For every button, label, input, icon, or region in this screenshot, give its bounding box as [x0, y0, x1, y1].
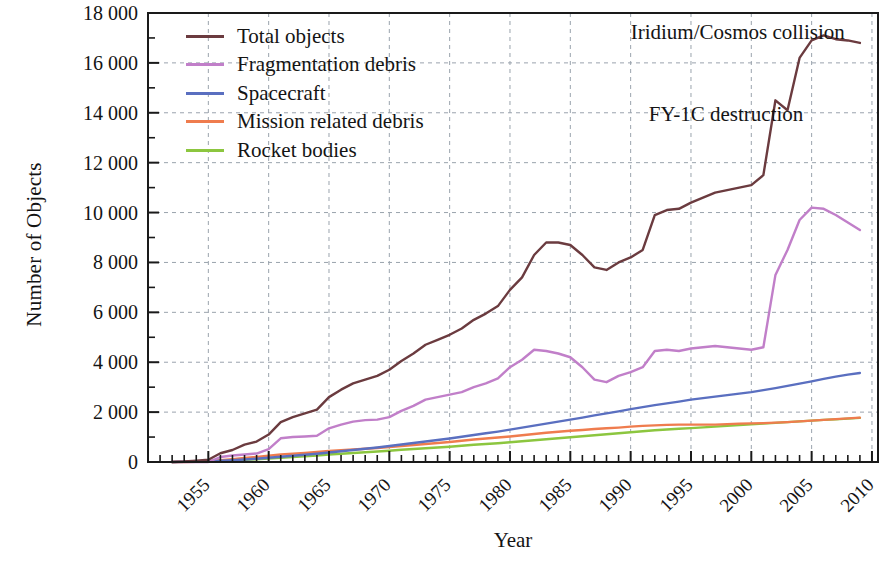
legend-item[interactable]: Mission related debris	[186, 108, 424, 137]
legend-color-swatch	[186, 35, 224, 38]
legend-item[interactable]: Fragmentation debris	[186, 51, 424, 80]
legend-label: Rocket bodies	[237, 140, 357, 161]
legend-label: Mission related debris	[237, 111, 424, 132]
plot-area	[0, 0, 891, 564]
chart-figure: Number of Objects Year 02 0004 0006 0008…	[0, 0, 891, 564]
legend-color-swatch	[186, 92, 224, 95]
legend-color-swatch	[186, 63, 224, 66]
legend-item[interactable]: Total objects	[186, 22, 424, 51]
legend-item[interactable]: Rocket bodies	[186, 136, 424, 165]
chart-annotation: FY-1C destruction	[649, 102, 804, 127]
legend-color-swatch	[186, 149, 224, 152]
legend-color-swatch	[186, 120, 224, 123]
chart-annotation: Iridium/Cosmos collision	[631, 20, 845, 45]
legend-label: Fragmentation debris	[237, 54, 416, 75]
series-line-3	[172, 418, 860, 462]
legend-item[interactable]: Spacecraft	[186, 79, 424, 108]
chart-legend: Total objectsFragmentation debrisSpacecr…	[186, 22, 424, 165]
series-line-2	[172, 373, 860, 462]
legend-label: Spacecraft	[237, 83, 326, 104]
legend-label: Total objects	[237, 26, 345, 47]
